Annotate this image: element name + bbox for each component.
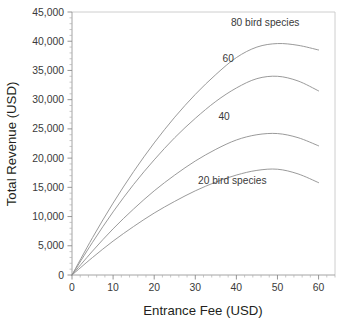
x-tick-label: 40 xyxy=(231,282,243,293)
x-tick-label: 30 xyxy=(190,282,202,293)
x-tick-label: 60 xyxy=(313,282,325,293)
y-tick-label: 25,000 xyxy=(32,123,64,134)
series-label-3: 20 bird species xyxy=(198,175,267,186)
y-tick-label: 15,000 xyxy=(32,182,64,193)
x-tick-label: 10 xyxy=(107,282,119,293)
series-label-1: 60 xyxy=(222,53,234,64)
y-tick-label: 5,000 xyxy=(38,240,64,251)
y-tick-label: 0 xyxy=(58,270,64,281)
series-label-0: 80 bird species xyxy=(231,17,300,28)
revenue-vs-entrance-fee-chart: 0102030405060 05,00010,00015,00020,00025… xyxy=(0,0,345,324)
y-tick-label: 35,000 xyxy=(32,65,64,76)
y-tick-label: 20,000 xyxy=(32,153,64,164)
y-tick-label: 40,000 xyxy=(32,36,64,47)
y-axis-title: Total Revenue (USD) xyxy=(4,82,19,207)
y-tick-label: 45,000 xyxy=(32,7,64,18)
x-axis-title: Entrance Fee (USD) xyxy=(143,303,262,318)
series-label-2: 40 xyxy=(218,111,230,122)
x-tick-label: 50 xyxy=(272,282,284,293)
y-tick-label: 30,000 xyxy=(32,94,64,105)
chart-figure: 0102030405060 05,00010,00015,00020,00025… xyxy=(0,0,345,324)
x-tick-label: 0 xyxy=(69,282,75,293)
y-tick-label: 10,000 xyxy=(32,211,64,222)
x-tick-label: 20 xyxy=(148,282,160,293)
